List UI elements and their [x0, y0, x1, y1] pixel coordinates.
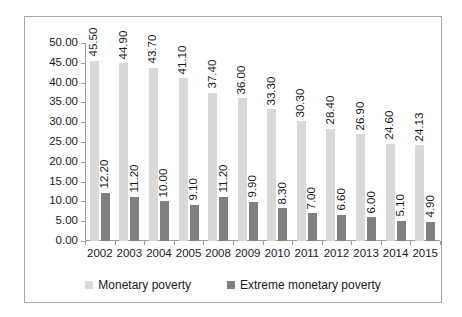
- bar-value-label: 5.10: [395, 194, 407, 216]
- bar[interactable]: 10.00: [160, 201, 169, 241]
- x-axis-label: 2011: [295, 248, 320, 260]
- bar-group: 24.134.90: [410, 43, 440, 241]
- bar-group: 36.009.90: [233, 43, 263, 241]
- x-axis-tick: [233, 241, 234, 245]
- y-axis-label: 35.00: [49, 97, 78, 109]
- bar-group: 37.4011.20: [203, 43, 233, 241]
- y-axis-label: 25.00: [49, 136, 78, 148]
- bar-group: 41.109.10: [174, 43, 204, 241]
- bar[interactable]: 9.90: [249, 202, 258, 241]
- bar[interactable]: 6.60: [337, 215, 346, 241]
- x-axis-tick: [85, 241, 86, 245]
- bar[interactable]: 37.40: [208, 93, 217, 241]
- legend-label: Extreme monetary poverty: [240, 279, 381, 291]
- y-axis-label: 50.00: [49, 37, 78, 49]
- bar[interactable]: 24.60: [386, 144, 395, 241]
- bar-value-label: 9.10: [188, 179, 200, 201]
- bar[interactable]: 4.90: [426, 222, 435, 241]
- bar[interactable]: 30.30: [297, 121, 306, 241]
- bar-value-label: 11.20: [129, 165, 141, 193]
- bar-value-label: 6.60: [336, 188, 348, 210]
- bar-group: 44.9011.20: [115, 43, 145, 241]
- x-axis-tick: [292, 241, 293, 245]
- bar-value-label: 37.40: [207, 60, 219, 89]
- bar[interactable]: 33.30: [267, 109, 276, 241]
- x-axis-tick: [410, 241, 411, 245]
- legend-label: Monetary poverty: [98, 279, 191, 291]
- legend-swatch-icon: [85, 281, 93, 289]
- x-axis-tick: [263, 241, 264, 245]
- bar-value-label: 30.30: [296, 88, 308, 117]
- y-axis-label: 15.00: [49, 176, 78, 188]
- bar[interactable]: 5.10: [397, 221, 406, 241]
- x-axis-label: 2004: [146, 248, 172, 260]
- bar-group: 43.7010.00: [144, 43, 174, 241]
- x-axis-tick: [322, 241, 323, 245]
- bar-group: 28.406.60: [322, 43, 352, 241]
- legend-item[interactable]: Extreme monetary poverty: [227, 279, 381, 291]
- x-axis-label: 2008: [205, 248, 231, 260]
- bar-value-label: 10.00: [159, 169, 171, 198]
- bar-value-label: 4.90: [425, 195, 437, 217]
- x-axis-tick: [351, 241, 352, 245]
- bar[interactable]: 8.30: [278, 208, 287, 241]
- bar[interactable]: 11.20: [130, 197, 139, 241]
- y-axis-label: 30.00: [49, 116, 78, 128]
- bar[interactable]: 41.10: [179, 78, 188, 241]
- bar-value-label: 44.90: [118, 30, 130, 59]
- bar[interactable]: 11.20: [219, 197, 228, 241]
- bar[interactable]: 28.40: [326, 129, 335, 241]
- bar[interactable]: 43.70: [149, 68, 158, 241]
- bar-group: 30.307.00: [292, 43, 322, 241]
- bar[interactable]: 44.90: [119, 63, 128, 241]
- bar-value-label: 24.13: [414, 113, 426, 142]
- x-axis-label: 2014: [383, 248, 409, 260]
- chart-legend: Monetary povertyExtreme monetary poverty: [25, 279, 441, 291]
- y-axis-label: 10.00: [49, 196, 78, 208]
- bar-value-label: 6.00: [366, 191, 378, 213]
- bar-value-label: 45.50: [89, 28, 101, 57]
- bar-value-label: 28.40: [325, 96, 337, 125]
- bar[interactable]: 26.90: [356, 134, 365, 241]
- x-axis-tick: [440, 241, 441, 245]
- x-axis-label: 2013: [353, 248, 379, 260]
- bar-value-label: 36.00: [236, 66, 248, 95]
- x-axis-label: 2003: [117, 248, 143, 260]
- plot-area: 50.0045.0040.0035.0030.0025.0020.0015.00…: [85, 43, 440, 241]
- chart-frame: 50.0045.0040.0035.0030.0025.0020.0015.00…: [24, 16, 442, 303]
- bar-group: 24.605.10: [381, 43, 411, 241]
- y-axis-label: 5.00: [56, 215, 78, 227]
- legend-item[interactable]: Monetary poverty: [85, 279, 191, 291]
- x-axis-label: 2012: [324, 248, 350, 260]
- x-axis-label: 2002: [87, 248, 113, 260]
- x-axis-label: 2005: [176, 248, 202, 260]
- x-axis-tick: [174, 241, 175, 245]
- x-axis-label: 2010: [264, 248, 290, 260]
- y-axis-label: 40.00: [49, 77, 78, 89]
- x-axis-tick: [115, 241, 116, 245]
- bar-value-label: 12.20: [100, 160, 112, 189]
- y-axis-label: 0.00: [56, 235, 78, 247]
- bar-group: 26.906.00: [351, 43, 381, 241]
- bar-value-label: 26.90: [355, 102, 367, 131]
- legend-swatch-icon: [227, 281, 235, 289]
- bar-value-label: 33.30: [266, 76, 278, 105]
- bar-value-label: 43.70: [148, 35, 160, 64]
- bar-group: 45.5012.20: [85, 43, 115, 241]
- bar[interactable]: 36.00: [238, 98, 247, 241]
- x-axis-label: 2009: [235, 248, 261, 260]
- bar-value-label: 24.60: [384, 111, 396, 140]
- x-axis-tick: [381, 241, 382, 245]
- bar-value-label: 9.90: [247, 175, 259, 197]
- x-axis-tick: [203, 241, 204, 245]
- y-axis-label: 45.00: [49, 57, 78, 69]
- bar[interactable]: 45.50: [90, 61, 99, 241]
- x-axis-label: 2015: [412, 248, 438, 260]
- bar-value-label: 11.20: [218, 165, 230, 193]
- bar[interactable]: 6.00: [367, 217, 376, 241]
- bar[interactable]: 7.00: [308, 213, 317, 241]
- bar-group: 33.308.30: [263, 43, 293, 241]
- bar[interactable]: 12.20: [101, 193, 110, 241]
- bar[interactable]: 24.13: [415, 145, 424, 241]
- bar[interactable]: 9.10: [190, 205, 199, 241]
